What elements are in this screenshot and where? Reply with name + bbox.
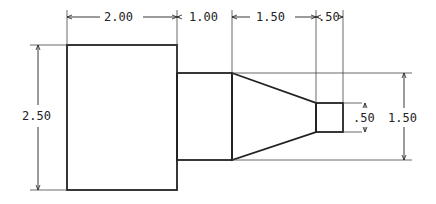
dim-top-2: 1.00 xyxy=(189,10,218,24)
taper xyxy=(232,73,316,160)
part-outline xyxy=(67,45,343,190)
dim-top-3: 1.50 xyxy=(256,10,285,24)
dim-top-4: .50 xyxy=(318,10,340,24)
extension-lines xyxy=(30,10,412,190)
large-cylinder xyxy=(67,45,177,190)
tip xyxy=(316,103,343,132)
dim-right-outer: 1.50 xyxy=(388,111,417,125)
neck xyxy=(177,73,232,160)
dim-top-1: 2.00 xyxy=(104,10,133,24)
part-drawing: 2.00 1.00 1.50 .50 2.50 .50 1.50 xyxy=(0,0,436,204)
dim-left: 2.50 xyxy=(22,109,51,123)
dim-right-inner: .50 xyxy=(353,111,375,125)
